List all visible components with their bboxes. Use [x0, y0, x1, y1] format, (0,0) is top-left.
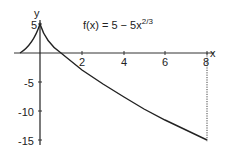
function-curve [20, 24, 207, 140]
y-tick-neg15: -15 [18, 135, 34, 147]
y-tick-neg5: -5 [24, 77, 34, 89]
x-tick-2: 2 [79, 56, 85, 68]
function-plot: y x 2 4 6 8 5 -5 -10 -15 f(x) = 5 − 5x2/… [0, 0, 230, 159]
y-tick-5: 5 [31, 19, 37, 31]
x-tick-4: 4 [121, 56, 127, 68]
y-axis-label: y [34, 7, 40, 19]
y-tick-neg10: -10 [18, 106, 34, 118]
chart-title: f(x) = 5 − 5x2/3 [83, 17, 153, 31]
x-axis-label: x [210, 47, 216, 59]
x-tick-6: 6 [162, 56, 168, 68]
x-tick-8: 8 [203, 56, 209, 68]
